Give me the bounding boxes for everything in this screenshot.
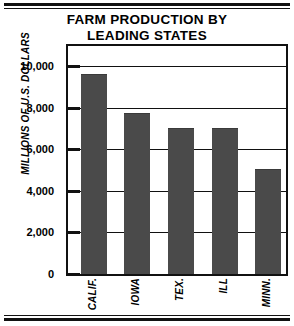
gridline <box>68 66 286 67</box>
y-axis-tick-label: 0 <box>0 269 54 280</box>
x-axis-label-iowa: IOWA <box>128 278 142 318</box>
bottom-rule-thick <box>4 318 290 321</box>
top-rule-thin <box>4 8 290 9</box>
bar-iowa <box>124 113 150 274</box>
bar-ill <box>212 128 238 274</box>
y-axis-tick <box>67 231 80 234</box>
chart-title-line-2: LEADING STATES <box>0 28 294 44</box>
x-axis-label-text: IOWA <box>130 278 141 305</box>
y-axis-tick-label: 2,000 <box>0 227 54 238</box>
x-axis-labels: CALIF.IOWATEX.ILLMINN. <box>66 278 288 320</box>
x-axis-label-text: TEX. <box>174 278 185 301</box>
x-axis-label-ill: ILL <box>216 278 230 318</box>
x-axis-label-text: MINN. <box>261 278 272 307</box>
x-axis-label-tex: TEX. <box>172 278 186 318</box>
y-axis-tick-label: 6,000 <box>0 144 54 155</box>
plot-frame: 02,0004,0006,0008,00010,000 <box>66 44 288 276</box>
y-axis-tick <box>67 273 80 276</box>
x-axis-label-text: CALIF. <box>87 278 98 310</box>
top-rule <box>4 3 290 9</box>
y-axis-tick <box>67 65 80 68</box>
bar-calif <box>81 74 107 274</box>
bar-minn <box>255 169 281 274</box>
x-axis-label-calif: CALIF. <box>85 278 99 318</box>
y-axis-tick <box>67 190 80 193</box>
chart-title-line-1: FARM PRODUCTION BY <box>0 12 294 28</box>
y-axis-tick <box>67 107 80 110</box>
chart-title: FARM PRODUCTION BY LEADING STATES <box>0 12 294 44</box>
y-axis-tick-label: 10,000 <box>0 61 54 72</box>
x-axis-label-minn: MINN. <box>259 278 273 318</box>
bottom-rule <box>4 315 290 321</box>
bar-tex <box>168 128 194 274</box>
plot-area: 02,0004,0006,0008,00010,000 <box>68 46 286 274</box>
y-axis-tick <box>67 148 80 151</box>
y-axis-tick-label: 4,000 <box>0 186 54 197</box>
x-axis-label-text: ILL <box>218 278 229 294</box>
y-axis-tick-label: 8,000 <box>0 103 54 114</box>
